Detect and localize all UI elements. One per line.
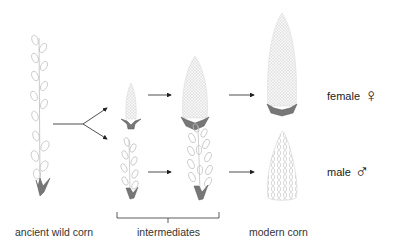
stage-label-intermediates: intermediates (137, 226, 200, 238)
stage-label-ancient: ancient wild corn (15, 226, 93, 238)
intermediate-male-1 (120, 137, 140, 199)
stage-label-modern: modern corn (249, 226, 308, 238)
male-label-text: male (327, 166, 351, 178)
female-symbol-icon: ♀ (364, 86, 378, 105)
male-symbol-icon: ♂ (355, 162, 369, 181)
intermediates-bracket (117, 212, 219, 223)
branch-arrow (53, 108, 107, 139)
intermediate-female-ear-2 (181, 56, 209, 130)
male-row-label: male ♂ (327, 162, 369, 181)
intermediate-male-2 (186, 123, 213, 200)
female-row-label: female ♀ (327, 86, 378, 105)
intermediate-female-ear-1 (121, 83, 141, 129)
female-label-text: female (327, 90, 360, 102)
corn-evolution-diagram (0, 0, 394, 241)
modern-female-ear (267, 13, 297, 116)
modern-male-tassel (267, 131, 297, 200)
ancient-wild-corn-plant (29, 34, 51, 196)
